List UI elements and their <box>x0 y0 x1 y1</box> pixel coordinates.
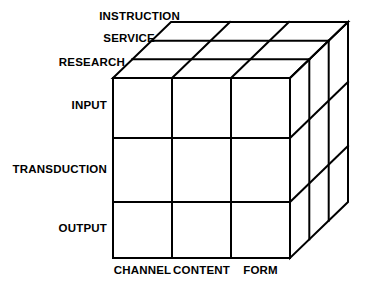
row-label-input: INPUT <box>72 99 108 111</box>
cube-front-face <box>113 78 290 258</box>
depth-label-instruction: INSTRUCTION <box>99 10 180 22</box>
depth-label-research: RESEARCH <box>59 56 125 68</box>
cube-right-face <box>290 22 348 258</box>
column-label-channel: CHANNEL <box>113 264 172 276</box>
cube-diagram <box>0 0 365 297</box>
right-face-outline <box>290 22 348 258</box>
front-face-outline <box>113 78 290 258</box>
depth-label-service: SERVICE <box>103 32 155 44</box>
figure-root: INSTRUCTION SERVICE RESEARCH INPUT TRANS… <box>0 0 365 297</box>
top-face-outline <box>113 22 348 78</box>
cube-top-face <box>113 22 348 78</box>
column-label-form: FORM <box>231 264 290 276</box>
top-recede-line-2 <box>231 22 289 78</box>
row-label-output: OUTPUT <box>59 222 107 234</box>
row-label-transduction: TRANSDUCTION <box>13 163 107 175</box>
right-recede-line-2 <box>290 146 348 202</box>
right-recede-line-1 <box>290 82 348 138</box>
top-recede-line-1 <box>172 22 230 78</box>
column-label-content: CONTENT <box>172 264 231 276</box>
